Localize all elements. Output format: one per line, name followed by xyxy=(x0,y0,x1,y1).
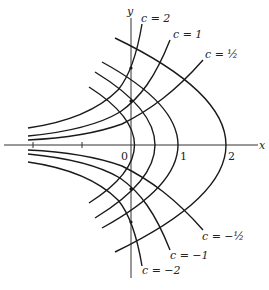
label-c-half: c = ½ xyxy=(205,48,238,61)
point-y-minus-1 xyxy=(129,187,132,190)
curve-c-minus-half xyxy=(28,150,203,230)
label-c-2: c = 2 xyxy=(141,12,170,25)
label-c-minus-half: c = −½ xyxy=(202,230,244,243)
x-axis-label: x xyxy=(259,139,266,152)
point-y-2 xyxy=(129,66,132,69)
point-y-1 xyxy=(129,99,132,102)
x-tick-label-1: 1 xyxy=(180,150,187,163)
label-c-minus-2: c = −2 xyxy=(142,264,181,277)
point-y-minus-2 xyxy=(129,220,132,223)
origin-label: 0 xyxy=(121,150,128,163)
label-c-minus-1: c = −1 xyxy=(170,249,209,262)
y-axis-label: y xyxy=(126,5,134,18)
x-tick-label-2: 2 xyxy=(228,150,235,163)
curve-c-half xyxy=(28,60,203,140)
diagram-canvas: y x 0 1 2 c = 2 c = 1 c = ½ c = −½ c = −… xyxy=(0,0,269,290)
label-c-1: c = 1 xyxy=(173,28,202,41)
